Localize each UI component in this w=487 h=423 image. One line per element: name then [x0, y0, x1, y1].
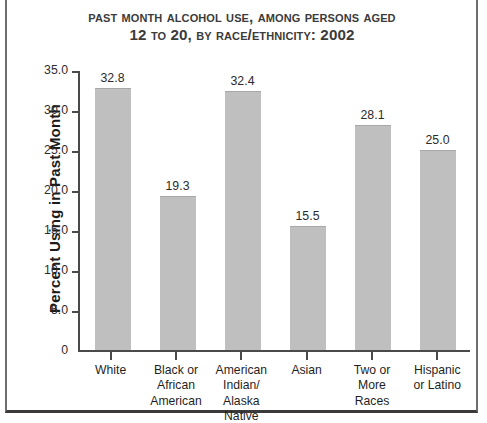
bar[interactable]: 25.0 [420, 150, 456, 350]
x-tick-mark [306, 352, 308, 360]
bar[interactable]: 15.5 [290, 226, 326, 350]
y-tick-label: 15.0 [44, 223, 68, 237]
bar-slot: 25.0 [405, 72, 470, 350]
x-tick: Hispanic or Latino [405, 352, 470, 423]
x-tick-mark [110, 352, 112, 360]
x-tick-label: White [95, 363, 126, 378]
y-tick-label: 5.0 [51, 303, 68, 317]
chart-title: Past Month Alcohol Use, Among Persons Ag… [12, 8, 472, 44]
x-tick-mark [436, 352, 438, 360]
chart-title-line-1: Past Month Alcohol Use, Among Persons Ag… [12, 8, 472, 26]
y-tick-label: 0 [61, 343, 68, 357]
y-tick-mark [72, 151, 80, 153]
x-tick: Black or African American [143, 352, 208, 423]
x-tick-mark [175, 352, 177, 360]
x-tick-label: Two or More Races [354, 363, 391, 409]
y-tick-label: 35.0 [44, 63, 68, 77]
y-tick-mark [72, 191, 80, 193]
y-tick-label: 30.0 [44, 103, 68, 117]
bar-value-label: 19.3 [166, 179, 190, 193]
y-tick-label: 25.0 [44, 143, 68, 157]
bar-value-label: 28.1 [361, 108, 385, 122]
x-tick-mark [240, 352, 242, 360]
y-tick-mark [72, 71, 80, 73]
x-tick: American Indian/ Alaska Native [209, 352, 274, 423]
y-tick-label: 10.0 [44, 263, 68, 277]
x-tick-label: Hispanic or Latino [414, 363, 461, 394]
x-tick: White [78, 352, 143, 423]
bar-value-label: 32.8 [101, 71, 125, 85]
bar-series: 32.819.332.415.528.125.0 [80, 72, 470, 350]
y-tick-mark [72, 231, 80, 233]
chart-title-line-2: 12 to 20, by Race/Ethnicity: 2002 [12, 26, 472, 44]
y-tick-mark [72, 311, 80, 313]
y-tick-mark [72, 111, 80, 113]
bar[interactable]: 28.1 [355, 125, 391, 350]
x-tick-label: Asian [291, 363, 322, 378]
y-tick-label: 20.0 [44, 183, 68, 197]
x-tick: Asian [274, 352, 339, 423]
x-tick: Two or More Races [339, 352, 404, 423]
bar-slot: 15.5 [275, 72, 340, 350]
bar-slot: 32.8 [80, 72, 145, 350]
x-axis-ticks: WhiteBlack or African AmericanAmerican I… [78, 352, 470, 423]
bar-slot: 19.3 [145, 72, 210, 350]
x-tick-label: Black or African American [150, 363, 201, 409]
bar-slot: 32.4 [210, 72, 275, 350]
chart-figure: Past Month Alcohol Use, Among Persons Ag… [0, 0, 487, 423]
bar[interactable]: 32.8 [95, 88, 131, 350]
y-tick-mark [72, 271, 80, 273]
x-tick-label: American Indian/ Alaska Native [216, 363, 267, 423]
bar-value-label: 32.4 [231, 74, 255, 88]
x-tick-mark [371, 352, 373, 360]
bar-slot: 28.1 [340, 72, 405, 350]
bar-value-label: 25.0 [426, 133, 450, 147]
bar[interactable]: 32.4 [225, 91, 261, 350]
bar[interactable]: 19.3 [160, 196, 196, 350]
plot-area: 35.030.025.020.015.010.05.00 32.819.332.… [78, 72, 470, 352]
bar-value-label: 15.5 [296, 209, 320, 223]
